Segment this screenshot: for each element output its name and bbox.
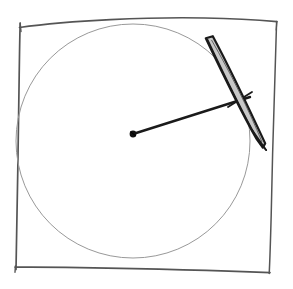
square-corner-tick-top-left bbox=[20, 23, 21, 31]
square-corner-tick-top-right bbox=[276, 22, 277, 30]
figure-root: Compass drawing a circle inscribed in a … bbox=[0, 0, 293, 289]
compass-pivot bbox=[130, 131, 137, 138]
paper-background bbox=[0, 0, 293, 289]
compass-circle-square-illustration: Compass drawing a circle inscribed in a … bbox=[0, 0, 293, 289]
